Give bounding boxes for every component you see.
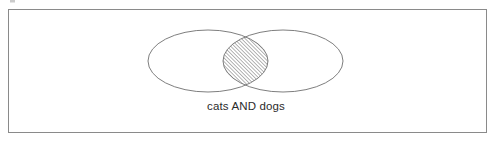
venn-diagram: cats AND dogs [0,0,495,143]
intersection-caption: cats AND dogs [207,100,285,112]
scan-smudge-artifact [10,0,15,3]
figure-root: cats AND dogs [0,0,495,143]
